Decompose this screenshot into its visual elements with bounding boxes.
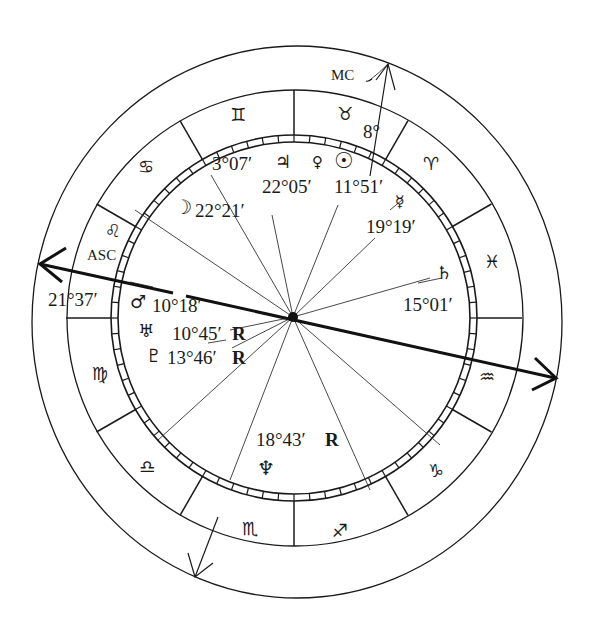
mercury-degree: 19°19′ [366, 217, 416, 236]
sign-aries: ♈ [423, 155, 439, 173]
uranus-glyph: ♅ [138, 322, 154, 340]
venus-degree: 22°05′ [262, 177, 312, 196]
sign-sagittarius: ♐ [332, 522, 348, 540]
mars-degree: 10°18′ [152, 296, 202, 315]
mc-degree: 8° [363, 122, 380, 141]
pluto-degree: 13°46′ [167, 348, 217, 367]
saturn-glyph: ♄ [436, 264, 452, 282]
sign-aquarius: ♒ [479, 368, 495, 386]
pluto-glyph: ♇ [146, 347, 162, 365]
jupiter-degree: 3°07′ [212, 154, 252, 173]
sign-leo: ♌ [105, 222, 121, 240]
mars-glyph: ♂ [130, 293, 146, 311]
neptune-glyph: ♆ [257, 458, 275, 478]
moon-degree: 22°21′ [195, 201, 245, 220]
asc-label: ASC [87, 248, 116, 263]
sign-libra: ♎ [139, 458, 155, 476]
sun-glyph: ☉ [334, 150, 354, 172]
saturn-degree: 15°01′ [403, 295, 453, 314]
sign-capricorn: ♑ [428, 462, 444, 480]
chart-wheel [0, 0, 589, 630]
mc-label: MC [331, 68, 354, 83]
uranus-degree: 10°45′ [172, 324, 222, 343]
sign-virgo: ♍ [92, 365, 108, 383]
sign-scorpio: ♏ [242, 520, 258, 538]
jupiter-glyph: ♃ [275, 153, 291, 171]
asc-degree: 21°37′ [48, 290, 98, 309]
uranus-retrograde: R [232, 324, 246, 343]
neptune-retrograde: R [325, 430, 339, 449]
sign-gemini: ♊ [230, 106, 246, 124]
mercury-glyph: ☿ [395, 194, 405, 210]
sun-degree: 11°51′ [334, 177, 383, 196]
venus-glyph: ♀ [312, 155, 323, 170]
neptune-degree: 18°43′ [256, 430, 306, 449]
sign-taurus: ♉ [337, 105, 353, 123]
moon-glyph: ☽ [174, 197, 192, 217]
sign-pisces: ♓ [484, 253, 500, 271]
sign-cancer: ♋ [138, 158, 154, 176]
pluto-retrograde: R [232, 348, 246, 367]
